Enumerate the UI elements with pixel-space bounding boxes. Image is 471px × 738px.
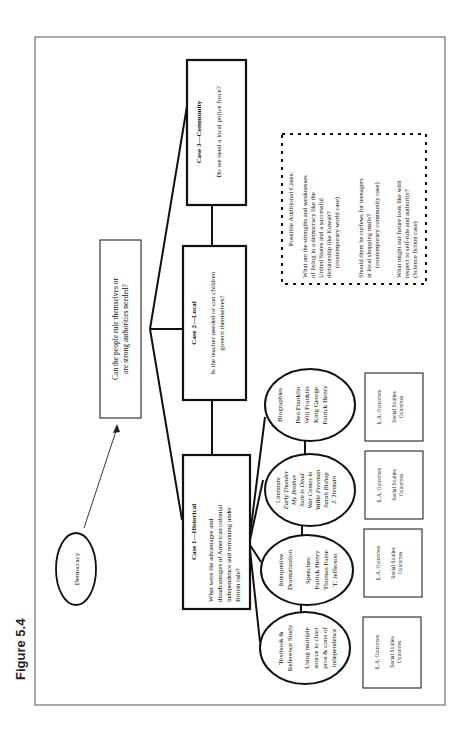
- central-question-box: Can the people rule themselves or are st…: [100, 240, 141, 418]
- la-outcomes-label: L.A. Outcomes: [375, 546, 381, 580]
- additional-case-3-line: What might our future look like with: [395, 180, 402, 278]
- case-1-question-line-3: independence and remaining under: [225, 506, 232, 602]
- interpretive-detail: Patrick Henry: [313, 550, 321, 590]
- ss-outcomes-label: Social Studies: [391, 469, 397, 500]
- additional-case-1-line: dictatorship like Kuwait?: [325, 211, 332, 278]
- ss-outcomes-label: Social Studies: [389, 636, 395, 667]
- additional-case-3-line: (Science fiction case): [411, 221, 419, 278]
- additional-cases-heading: Possible Additional Cases:: [287, 172, 295, 247]
- central-question-line-2: are strong authorities needed?: [121, 283, 130, 373]
- case-1-box: Case 1—Historical What were the advantag…: [183, 455, 250, 609]
- biographies-detail: King George: [312, 387, 320, 423]
- additional-case-3-line: respect to self-rule and authority?: [403, 189, 410, 278]
- interpretive-title: Interpretive: [277, 554, 285, 587]
- ss-outcomes-label: Outcomes: [397, 552, 403, 574]
- literature-detail: J. Tremain: [330, 475, 337, 504]
- additional-case-2-line: Should there be curfews for teenagers: [357, 178, 364, 278]
- additional-case-2-line: (contemporary community case): [373, 182, 381, 268]
- la-outcomes-label: L.A. Outcomes: [374, 635, 380, 669]
- biographies-detail: Patrick Henry: [321, 385, 329, 425]
- activity-interpretive-dramatization: Interpretive Dramatization Speeches: Pat…: [261, 535, 353, 605]
- case-3-question: Do we need a local police force?: [215, 86, 223, 178]
- activity-literature: Literature Early Thunder My Brother Sam …: [265, 454, 355, 526]
- additional-case-1-line: What are the strengths and weaknesses: [301, 175, 308, 278]
- additional-case-1-line: of living in a democracy like the: [309, 192, 316, 278]
- outcome-box-interpretive: L.A. Outcomes Social Studies Outcomes: [364, 529, 422, 597]
- literature-detail: Willie Freeman: [314, 469, 321, 510]
- case-1-question-line-4: British rule?: [234, 568, 241, 602]
- textbook-detail: pros & cons of: [321, 627, 329, 669]
- textbook-title: Textbook &: [277, 631, 285, 665]
- additional-case-1-line: (contemporary world case): [333, 197, 341, 268]
- outcome-box-textbook: L.A. Outcomes Social Studies Outcomes: [363, 617, 421, 688]
- literature-detail: Sarah Bishop: [322, 471, 329, 507]
- case-2-title: Case 2—Local: [190, 301, 198, 344]
- ss-outcomes-label: Outcomes: [398, 396, 404, 418]
- outcome-box-literature: L.A. Outcomes Social Studies Outcomes: [365, 451, 423, 519]
- la-outcomes-label: L.A. Outcomes: [376, 468, 382, 502]
- literature-detail: My Brother: [290, 474, 297, 506]
- activity-textbook-reference-study: Textbook & Reference Study Using multipl…: [260, 612, 350, 684]
- biographies-detail: Will Franklin: [303, 386, 311, 424]
- case-1-question-line-2: disadvantages of American colonial: [216, 505, 223, 602]
- outcome-box-biographies: L.A. Outcomes Social Studies Outcomes: [365, 373, 423, 441]
- central-question-line-1: Can the people rule themselves or: [111, 278, 120, 380]
- interpretive-detail: T. Jefferson: [331, 553, 339, 586]
- democracy-node: Democracy: [56, 533, 96, 605]
- additional-cases-box: Possible Additional Cases: What are the …: [282, 134, 426, 284]
- concept-map-diagram: Figure 5.4 Democracy Can the people rule…: [0, 0, 471, 738]
- textbook-detail: source to chart: [312, 627, 320, 668]
- literature-detail: Early Thunder: [282, 470, 289, 510]
- biographies-title: Biographies: [276, 388, 284, 422]
- ss-outcomes-label: Outcomes: [396, 641, 402, 663]
- additional-case-1-line: United States and a successful: [317, 198, 324, 278]
- case-2-question-line-1: Is the teacher needed or can children: [209, 271, 217, 374]
- figure-label: Figure 5.4: [13, 618, 28, 680]
- case-3-title: Case 3—Community: [195, 100, 203, 163]
- interpretive-title: Dramatization: [286, 549, 294, 590]
- ss-outcomes-label: Outcomes: [398, 474, 404, 496]
- literature-detail: Sam is Dead: [298, 473, 305, 507]
- literature-title: Literature: [274, 477, 281, 503]
- interpretive-detail: Speeches:: [304, 556, 312, 584]
- case-2-question-line-2: govern themselves?: [218, 295, 226, 350]
- textbook-title: Reference Study: [286, 624, 294, 671]
- case-2-box: Case 2—Local Is the teacher needed or ca…: [183, 246, 246, 400]
- la-outcomes-label: L.A. Outcomes: [376, 390, 382, 424]
- democracy-label: Democracy: [73, 552, 81, 585]
- literature-detail: War Comes to: [306, 471, 313, 509]
- interpretive-detail: Thomas Paine: [322, 550, 330, 590]
- case-1-title: Case 1—Historical: [190, 504, 198, 560]
- additional-case-2-line: at local shopping malls?: [365, 214, 372, 278]
- ss-outcomes-label: Social Studies: [391, 391, 397, 422]
- biographies-detail: Ben Franklin: [294, 386, 302, 423]
- textbook-detail: Using multiple: [303, 627, 311, 669]
- ss-outcomes-label: Social Studies: [390, 547, 396, 578]
- activity-biographies: Biographies Ben Franklin Will Franklin K…: [265, 369, 355, 441]
- case-1-question-line-1: What were the advantages and: [207, 518, 214, 602]
- textbook-detail: independence: [330, 629, 338, 667]
- case-3-box: Case 3—Community Do we need a local poli…: [187, 60, 246, 205]
